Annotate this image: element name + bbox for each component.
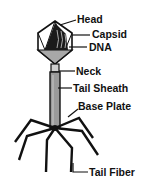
base-plate xyxy=(52,125,58,131)
label-dna: DNA xyxy=(89,41,112,53)
label-tail-fiber: Tail Fiber xyxy=(89,166,135,178)
label-base-plate: Base Plate xyxy=(78,100,131,112)
phage-head xyxy=(38,21,72,64)
bacteriophage-diagram: Head Capsid DNA Neck Tail Sheath Base Pl… xyxy=(0,0,144,183)
label-capsid: Capsid xyxy=(92,28,127,40)
label-neck: Neck xyxy=(76,65,101,77)
leader-head xyxy=(60,20,76,25)
label-tail-sheath: Tail Sheath xyxy=(73,82,128,94)
capsid-lower-face xyxy=(38,50,72,64)
leader-tail-fiber xyxy=(73,163,88,172)
phage-neck xyxy=(51,64,59,72)
leader-base-plate xyxy=(68,109,78,117)
tail-sheath xyxy=(50,72,60,128)
label-head: Head xyxy=(77,13,103,25)
